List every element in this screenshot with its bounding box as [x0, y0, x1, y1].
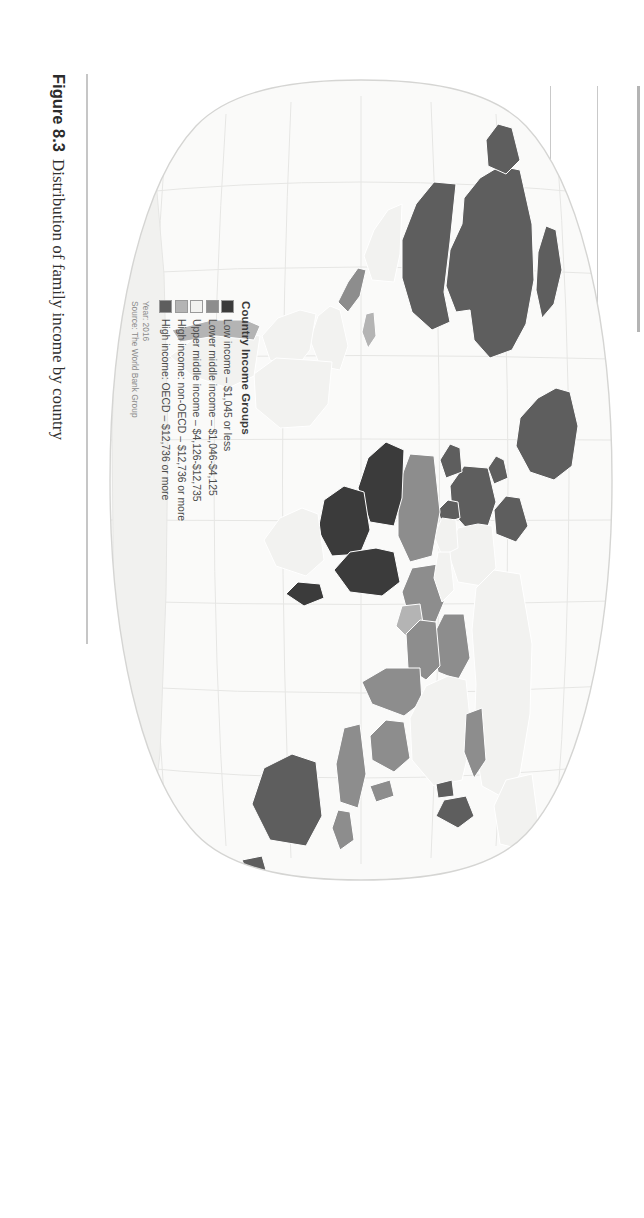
caption-rule — [86, 74, 88, 644]
legend-label-high-income-oecd: High income: OECD – $12,736 or more — [160, 319, 171, 500]
page-rule-top — [638, 86, 641, 332]
legend-title: Country Income Groups — [240, 301, 252, 630]
legend-label-lower-middle-income: Lower middle income – $1,046-$4,125 — [207, 319, 218, 496]
map-legend: Country Income Groups Low income – $1,04… — [130, 300, 253, 630]
legend-item-upper-middle-income[interactable]: Upper middle income – $4,126-$12,735 — [190, 300, 205, 630]
legend-swatch-upper-middle-income — [190, 300, 203, 313]
rotated-figure-content: Country Income Groups Low income – $1,04… — [0, 0, 644, 1218]
legend-item-lower-middle-income[interactable]: Lower middle income – $1,046-$4,125 — [205, 300, 220, 630]
figure-number: Figure 8.3 — [50, 74, 68, 152]
legend-item-high-income-non-oecd[interactable]: High income: non-OECD – $12,736 or more — [174, 300, 189, 630]
figure-caption-text: Distribution of family income by country — [49, 159, 68, 440]
legend-swatch-lower-middle-income — [206, 300, 219, 313]
legend-label-low-income: Low income – $1,045 or less — [222, 319, 233, 451]
legend-label-high-income-non-oecd: High income: non-OECD – $12,736 or more — [176, 319, 187, 521]
figure-page: Country Income Groups Low income – $1,04… — [0, 0, 644, 1218]
legend-item-high-income-oecd[interactable]: High income: OECD – $12,736 or more — [159, 300, 174, 630]
legend-metadata: Year: 2016 Source: The World Bank Group — [130, 301, 152, 630]
legend-year: Year: 2016 — [141, 301, 152, 630]
figure-caption: Figure 8.3Distribution of family income … — [48, 74, 68, 1134]
legend-swatch-high-income-oecd — [159, 300, 172, 313]
region-north-africa — [398, 454, 440, 562]
legend-swatch-low-income — [221, 300, 234, 313]
legend-item-low-income[interactable]: Low income – $1,045 or less — [221, 300, 236, 630]
legend-swatch-high-income-non-oecd — [175, 300, 188, 313]
legend-source: Source: The World Bank Group — [130, 301, 141, 630]
legend-label-upper-middle-income: Upper middle income – $4,126-$12,735 — [191, 319, 202, 502]
